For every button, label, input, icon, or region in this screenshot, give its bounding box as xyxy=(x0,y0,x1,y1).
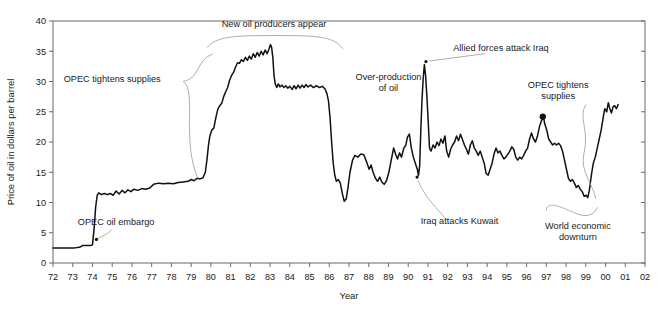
x-tick-label-98: 98 xyxy=(561,272,571,282)
x-tick-label-79: 79 xyxy=(186,272,196,282)
annotation-allied-forces-attack-iraq: Allied forces attack Iraq xyxy=(453,43,549,53)
annotation-world-economic-downturn-line1: World economic xyxy=(545,221,611,231)
x-tick-label-94: 94 xyxy=(482,272,492,282)
chart-canvas: 0510152025303540727374757677787980818283… xyxy=(0,0,660,319)
leader-allied-forces-attack-iraq xyxy=(430,54,485,61)
x-tick-label-85: 85 xyxy=(304,272,314,282)
y-tick-label-25: 25 xyxy=(36,107,46,117)
leader-iraq-attacks-kuwait xyxy=(418,181,448,222)
x-tick-label-72: 72 xyxy=(48,272,58,282)
leader-arrowhead-1 xyxy=(415,175,418,178)
x-axis-title: Year xyxy=(340,290,359,301)
annotation-over-production-of-oil-line1: Over-production xyxy=(356,72,422,82)
x-tick-label-95: 95 xyxy=(502,272,512,282)
leader-arrowhead-0 xyxy=(95,238,98,241)
x-tick-label-97: 97 xyxy=(541,272,551,282)
x-tick-label-77: 77 xyxy=(147,272,157,282)
y-tick-label-30: 30 xyxy=(36,77,46,87)
y-tick-label-40: 40 xyxy=(36,16,46,26)
x-tick-label-73: 73 xyxy=(68,272,78,282)
x-tick-label-83: 83 xyxy=(265,272,275,282)
leader-opec-tightens-supplies-1b xyxy=(183,82,198,179)
annotation-over-production-of-oil-line2: of oil xyxy=(379,83,398,93)
x-tick-label-89: 89 xyxy=(383,272,393,282)
x-tick-label-02: 02 xyxy=(640,272,650,282)
leader-opec-oil-embargo xyxy=(97,229,112,239)
y-tick-label-20: 20 xyxy=(36,137,46,147)
x-tick-label-99: 99 xyxy=(581,272,591,282)
x-tick-label-76: 76 xyxy=(127,272,137,282)
x-tick-label-87: 87 xyxy=(344,272,354,282)
annotation-iraq-attacks-kuwait: Iraq attacks Kuwait xyxy=(421,216,499,226)
x-tick-label-82: 82 xyxy=(245,272,255,282)
annotation-new-oil-producers-appear: New oil producers appear xyxy=(222,19,327,29)
x-tick-label-88: 88 xyxy=(364,272,374,282)
x-tick-label-00: 00 xyxy=(600,272,610,282)
x-tick-label-84: 84 xyxy=(285,272,295,282)
x-tick-label-90: 90 xyxy=(403,272,413,282)
brace-new-oil-producers-appear xyxy=(207,36,343,49)
y-tick-label-15: 15 xyxy=(36,168,46,178)
annotation-opec-oil-embargo: OPEC oil embargo xyxy=(78,217,155,227)
leader-world-economic-downturn xyxy=(546,205,597,215)
annotation-world-economic-downturn-line2: downturn xyxy=(559,232,597,242)
y-axis-title: Price of oil in dollars per barrel xyxy=(5,79,16,206)
x-tick-label-96: 96 xyxy=(521,272,531,282)
x-tick-label-01: 01 xyxy=(620,272,630,282)
y-tick-label-10: 10 xyxy=(36,198,46,208)
x-tick-label-75: 75 xyxy=(107,272,117,282)
x-tick-label-91: 91 xyxy=(423,272,433,282)
leader-opec-tightens-supplies-1 xyxy=(183,54,213,82)
x-tick-label-93: 93 xyxy=(462,272,472,282)
annotation-opec-tightens-supplies-2-line2: supplies xyxy=(541,91,575,101)
leader-arrowhead-2 xyxy=(424,60,427,63)
x-tick-label-74: 74 xyxy=(87,272,97,282)
x-tick-label-86: 86 xyxy=(324,272,334,282)
annotation-opec-tightens-supplies-1: OPEC tightens supplies xyxy=(64,74,161,84)
annotation-opec-tightens-supplies-2-line1: OPEC tightens xyxy=(528,80,589,90)
marker-opec-tightens-supplies-2 xyxy=(540,113,546,119)
y-tick-label-5: 5 xyxy=(41,228,46,238)
leader-opec-tightens-supplies-2 xyxy=(583,104,596,198)
oil-price-chart: 0510152025303540727374757677787980818283… xyxy=(0,0,660,319)
y-tick-label-0: 0 xyxy=(41,258,46,268)
x-tick-label-78: 78 xyxy=(166,272,176,282)
x-tick-label-81: 81 xyxy=(225,272,235,282)
y-tick-label-35: 35 xyxy=(36,47,46,57)
x-tick-label-92: 92 xyxy=(443,272,453,282)
x-tick-label-80: 80 xyxy=(206,272,216,282)
